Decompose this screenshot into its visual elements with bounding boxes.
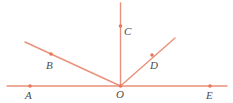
segments-group [7,3,227,86]
point-C [119,24,123,28]
point-label-a: A [25,90,32,101]
point-E [208,84,212,88]
point-B [49,52,53,56]
point-D [150,53,154,57]
point-label-o: O [116,89,124,100]
point-label-e: E [206,90,213,101]
point-A [28,84,32,88]
geometry-figure: A B C D E O [0,0,233,103]
point-label-d: D [150,60,158,71]
point-label-c: C [124,26,131,37]
point-label-b: B [46,60,53,71]
ray-OB [25,42,121,86]
ray-OD [121,38,176,86]
